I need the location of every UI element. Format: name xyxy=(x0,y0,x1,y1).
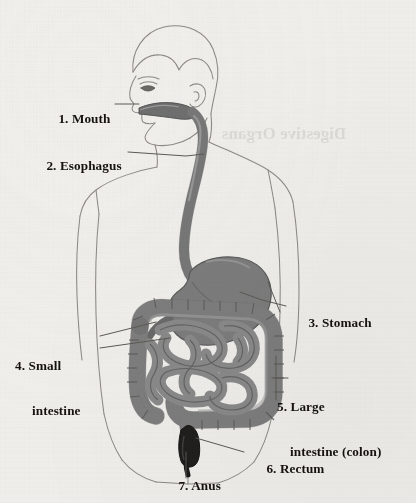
label-rectum-text: 6. Rectum xyxy=(266,461,324,476)
label-small-intestine-line2: intestine xyxy=(15,403,81,418)
label-esophagus-text: 2. Esophagus xyxy=(46,158,121,173)
label-small-intestine-line1: 4. Small xyxy=(15,358,81,373)
label-anus[interactable]: 7. Anus xyxy=(158,463,221,503)
label-large-intestine-line1: 5. Large xyxy=(277,399,381,414)
label-small-intestine[interactable]: 4. Small intestine xyxy=(15,328,81,448)
label-esophagus[interactable]: 2. Esophagus xyxy=(26,143,122,188)
figure-canvas: Digestive Organs xyxy=(0,0,416,503)
label-mouth-text: 1. Mouth xyxy=(58,111,110,126)
label-stomach[interactable]: 3. Stomach xyxy=(288,300,372,345)
label-rectum[interactable]: 6. Rectum xyxy=(246,446,324,491)
label-stomach-text: 3. Stomach xyxy=(308,315,371,330)
label-layer: 1. Mouth 2. Esophagus 3. Stomach 4. Smal… xyxy=(0,0,416,503)
label-anus-text: 7. Anus xyxy=(178,478,220,493)
label-mouth[interactable]: 1. Mouth xyxy=(38,96,110,141)
